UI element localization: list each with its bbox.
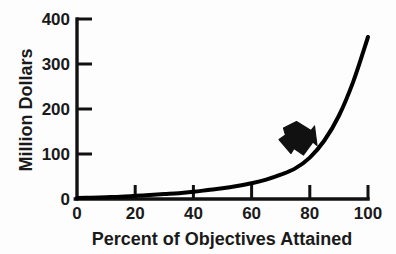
y-tick-label: 300 [42,55,70,74]
x-tick-label: 20 [126,204,145,223]
x-tick-label: 100 [354,204,382,223]
x-tick-label: 60 [242,204,261,223]
y-tick-label: 200 [42,100,70,119]
y-tick-label: 400 [42,10,70,29]
x-axis-title: Percent of Objectives Attained [92,229,352,249]
x-tick-label: 80 [300,204,319,223]
y-tick-label: 100 [42,145,70,164]
y-tick-label: 0 [61,190,70,209]
x-tick-label: 0 [72,204,81,223]
x-tick-label: 40 [184,204,203,223]
chart-figure: 0100200300400 020406080100 Million Dolla… [0,0,396,254]
y-axis-title: Million Dollars [16,48,36,171]
